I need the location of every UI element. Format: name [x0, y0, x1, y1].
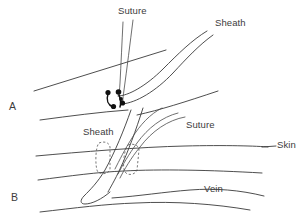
- knot-dot-3: [111, 104, 116, 109]
- tissue-line-lower-b: [38, 170, 262, 180]
- knot-dot-5: [119, 97, 123, 101]
- panel-label-a: A: [9, 101, 16, 112]
- vein-lower-wall-b: [40, 202, 250, 212]
- label-sheath-panel-a: Sheath: [215, 18, 246, 28]
- label-suture-panel-b: Suture: [186, 120, 215, 130]
- vein-upper-wall-b: [112, 189, 264, 198]
- panel-a-group: [34, 20, 218, 115]
- label-vein-panel-b: Vein: [204, 184, 223, 194]
- label-sheath-panel-b: Sheath: [83, 127, 114, 137]
- sheath-tube-inner-a: [122, 35, 213, 104]
- label-skin-panel-b: Skin: [277, 140, 296, 150]
- knot-dot-4: [120, 100, 125, 105]
- knot-dot-2: [116, 89, 122, 95]
- skin-leader-line-b: [262, 146, 276, 147]
- knot-link-right-a: [119, 95, 121, 107]
- skin-line-b: [36, 146, 268, 156]
- knot-dot-1: [105, 90, 110, 95]
- label-suture-panel-a: Suture: [118, 6, 147, 16]
- figure-canvas: Suture Sheath A Sheath Suture Skin Vein …: [0, 0, 308, 222]
- tissue-line-upper-b: [40, 110, 128, 120]
- suture-thread-3-b: [115, 108, 162, 169]
- dashed-marker-left-path-b: [96, 142, 110, 174]
- skin-line-lower-a: [137, 91, 218, 115]
- suture-knot-a: [105, 89, 125, 109]
- sheath-tube-outer-a: [118, 31, 207, 96]
- diagram-svg: [0, 0, 308, 222]
- panel-b-group: [36, 108, 276, 212]
- sheath-wall-left-b: [81, 110, 131, 204]
- suture-thread-left-a: [119, 22, 123, 96]
- panel-label-b: B: [11, 192, 18, 203]
- skin-line-upper-a: [34, 50, 166, 91]
- dashed-marker-left-b: [96, 142, 110, 174]
